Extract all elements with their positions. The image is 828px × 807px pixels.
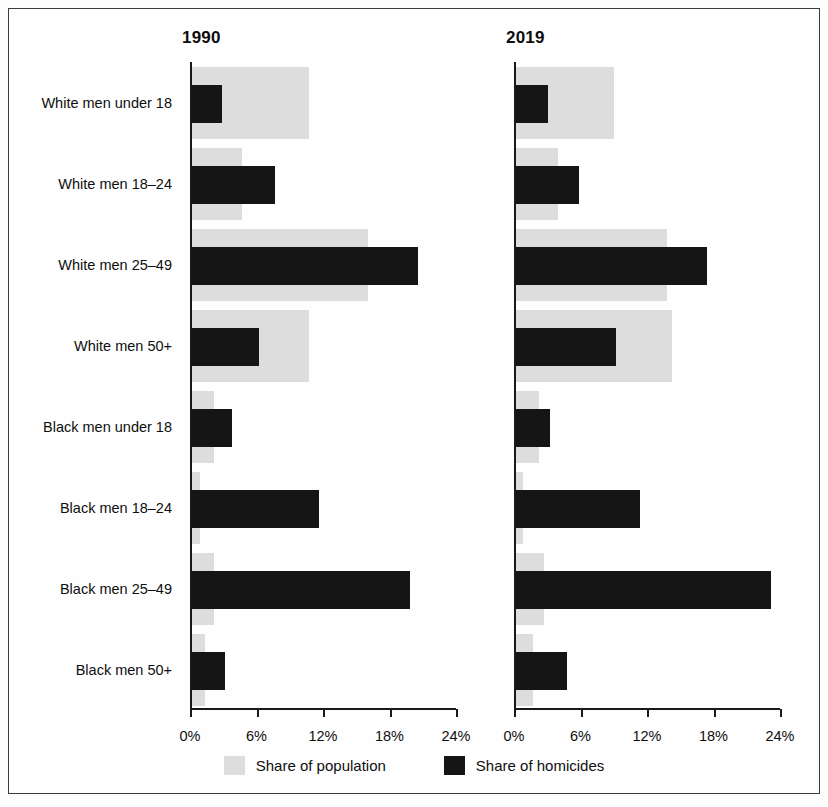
chart-legend: Share of populationShare of homicides — [0, 756, 828, 775]
x-axis-tick — [714, 709, 716, 717]
x-axis-tick-label: 12% — [308, 728, 337, 744]
bar-share-of-homicides — [516, 247, 707, 285]
x-axis-tick-label: 6% — [570, 728, 591, 744]
category-label: White men under 18 — [12, 95, 172, 111]
x-axis-tick — [390, 709, 392, 717]
legend-swatch-homicides-icon — [444, 756, 465, 775]
bar-share-of-homicides — [192, 247, 418, 285]
x-axis-tick-label: 24% — [765, 728, 794, 744]
legend-item-homicides: Share of homicides — [444, 756, 604, 775]
x-axis-tick-label: 6% — [246, 728, 267, 744]
legend-item-population: Share of population — [224, 756, 386, 775]
x-axis-tick — [581, 709, 583, 717]
bar-share-of-homicides — [516, 85, 548, 123]
x-axis-tick-label: 24% — [441, 728, 470, 744]
category-label: Black men 25–49 — [12, 581, 172, 597]
x-axis-tick — [190, 709, 192, 717]
bar-share-of-homicides — [192, 166, 275, 204]
legend-label: Share of homicides — [476, 757, 604, 774]
category-label: Black men under 18 — [12, 419, 172, 435]
x-axis-tick — [257, 709, 259, 717]
legend-swatch-population-icon — [224, 756, 245, 775]
bar-share-of-homicides — [192, 409, 232, 447]
bar-share-of-homicides — [192, 328, 259, 366]
bar-share-of-homicides — [516, 328, 616, 366]
category-label: Black men 50+ — [12, 662, 172, 678]
category-label: White men 18–24 — [12, 176, 172, 192]
category-label: Black men 18–24 — [12, 500, 172, 516]
bar-share-of-homicides — [516, 652, 567, 690]
figure-root: 1990 2019 White men under 18White men 18… — [0, 0, 828, 807]
x-axis-tick — [323, 709, 325, 717]
panel-title-1990: 1990 — [182, 28, 221, 48]
category-label: White men 25–49 — [12, 257, 172, 273]
x-axis-tick — [647, 709, 649, 717]
x-axis-tick-label: 12% — [632, 728, 661, 744]
category-label: White men 50+ — [12, 338, 172, 354]
bar-share-of-homicides — [192, 490, 319, 528]
x-axis-tick — [514, 709, 516, 717]
legend-label: Share of population — [256, 757, 386, 774]
x-axis-tick-label: 0% — [180, 728, 201, 744]
x-axis-tick-label: 18% — [699, 728, 728, 744]
bar-share-of-homicides — [516, 490, 640, 528]
x-axis-tick-label: 0% — [504, 728, 525, 744]
bar-share-of-homicides — [516, 166, 579, 204]
bar-share-of-homicides — [516, 409, 550, 447]
chart-panel-2019: 0%6%12%18%24% — [514, 62, 782, 710]
bar-share-of-homicides — [192, 571, 410, 609]
bar-share-of-homicides — [192, 652, 225, 690]
bar-share-of-homicides — [516, 571, 771, 609]
bar-share-of-homicides — [192, 85, 222, 123]
x-axis-tick — [456, 709, 458, 717]
category-axis-labels: White men under 18White men 18–24White m… — [18, 62, 182, 710]
chart-panel-1990: 0%6%12%18%24% — [190, 62, 458, 710]
panel-title-2019: 2019 — [506, 28, 545, 48]
x-axis-tick-label: 18% — [375, 728, 404, 744]
x-axis-tick — [780, 709, 782, 717]
